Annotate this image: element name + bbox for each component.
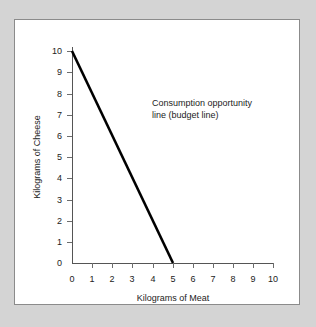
y-tick-label-3: 3 [57, 195, 62, 205]
x-tick-label-1: 1 [89, 274, 94, 284]
x-tick-label-3: 3 [129, 274, 134, 284]
x-tick-label-0: 0 [69, 274, 74, 284]
x-tick-label-4: 4 [150, 274, 155, 284]
y-tick-label-9: 9 [57, 67, 62, 77]
x-tick-label-5: 5 [170, 274, 175, 284]
budget-line-annotation-line2: line (budget line) [152, 110, 219, 120]
x-tick-label-10: 10 [268, 274, 278, 284]
y-tick-label-2: 2 [57, 216, 62, 226]
y-axis-title: Kilograms of Cheese [32, 115, 42, 199]
x-tick-label-8: 8 [230, 274, 235, 284]
y-tick-label-10: 10 [52, 46, 62, 56]
budget-line [72, 51, 173, 263]
y-tick-label-4: 4 [57, 173, 62, 183]
x-tick-label-6: 6 [190, 274, 195, 284]
y-tick-label-8: 8 [57, 89, 62, 99]
y-tick-label-7: 7 [57, 110, 62, 120]
x-tick-label-7: 7 [210, 274, 215, 284]
x-axis-ticks [92, 263, 273, 268]
y-axis-ticks [67, 51, 72, 242]
budget-line-annotation-line1: Consumption opportunity [152, 98, 253, 108]
x-axis-title: Kilograms of Meat [137, 293, 210, 303]
x-tick-label-9: 9 [250, 274, 255, 284]
y-tick-label-0: 0 [57, 258, 62, 268]
y-tick-label-6: 6 [57, 131, 62, 141]
y-tick-label-1: 1 [57, 237, 62, 247]
chart-plot-area: 0 1 2 3 4 5 6 7 8 9 10 0 1 2 3 4 5 6 [15, 20, 301, 306]
y-tick-label-5: 5 [57, 152, 62, 162]
x-tick-label-2: 2 [109, 274, 114, 284]
figure-panel: 0 1 2 3 4 5 6 7 8 9 10 0 1 2 3 4 5 6 [14, 19, 300, 305]
